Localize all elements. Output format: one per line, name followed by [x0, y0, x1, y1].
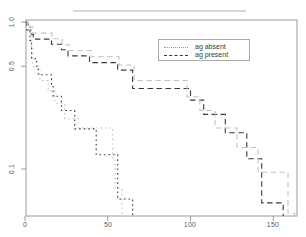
legend-line-sample-dotted: [164, 47, 188, 48]
survival-plot-figure: 1.0 0.5 0.1 0 50 100 150 ag absent ag pr…: [0, 0, 306, 237]
plot-canvas: [0, 0, 306, 237]
y-tick-label-1.0: 1.0: [8, 17, 15, 27]
legend-entry-ag-present: ag present: [159, 50, 249, 60]
legend-line-sample-dashed: [164, 55, 188, 56]
x-tick-label-150: 150: [267, 221, 279, 228]
legend-box: ag absent ag present: [158, 39, 250, 61]
survival-curve-ag-absent-fitted-: [25, 24, 122, 216]
x-tick-label-50: 50: [104, 221, 112, 228]
y-tick-label-0.5: 0.5: [8, 61, 15, 71]
x-tick-label-100: 100: [184, 221, 196, 228]
legend-label-ag-present: ag present: [195, 50, 228, 60]
survival-curve-ag-absent: [25, 22, 133, 216]
x-tick-label-0: 0: [23, 221, 27, 228]
y-tick-label-0.1: 0.1: [8, 164, 15, 174]
